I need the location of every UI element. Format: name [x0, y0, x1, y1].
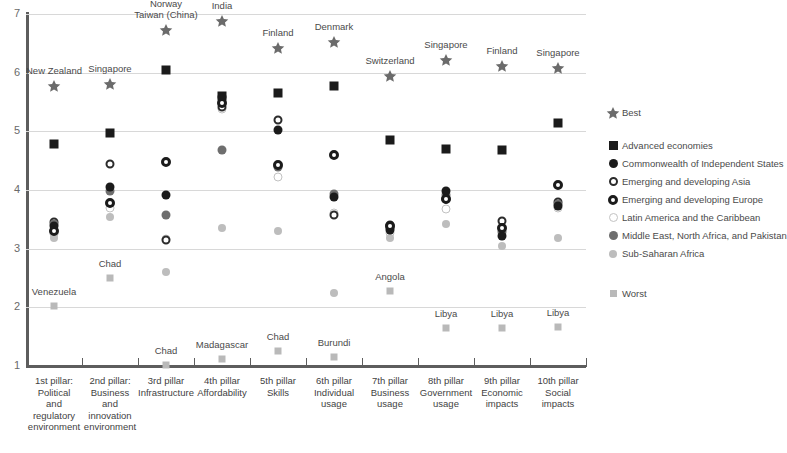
- worst-country-label-pillar-2: Chad: [99, 258, 122, 269]
- label-line: Norway: [134, 0, 197, 9]
- label-line: Singapore: [536, 47, 579, 58]
- datapoint-adv-pillar-9: [498, 146, 507, 155]
- category-line: Economic: [473, 387, 531, 399]
- category-line: 5th pillar: [249, 375, 307, 387]
- datapoint-adv-pillar-2: [106, 129, 115, 138]
- legend-item-1: Advanced economies: [604, 137, 779, 154]
- label-line: India: [212, 0, 233, 11]
- legend-label: Commonwealth of Independent States: [622, 158, 784, 169]
- x-axis-tick: [26, 358, 27, 367]
- legend-spacer: [604, 122, 779, 137]
- datapoint-adv-pillar-3: [162, 65, 171, 74]
- y-axis-tick-3: 3: [0, 242, 20, 254]
- datapoint-latam-pillar-8: [442, 204, 451, 213]
- datapoint-europe-pillar-2: [105, 198, 115, 208]
- category-line: regulatory: [25, 410, 83, 422]
- datapoint-worst-pillar-7: [387, 287, 394, 294]
- x-category-label-pillar-5: 5th pillarSkills: [249, 375, 307, 398]
- x-category-label-pillar-3: 3rd pillarInfrastructure: [137, 375, 195, 398]
- datapoint-ssa-pillar-5: [274, 227, 282, 235]
- legend-item-6: Middle East, North Africa, and Pakistan: [604, 227, 779, 244]
- marker-glyph: [609, 159, 618, 168]
- y-axis-tick-1: 1: [0, 359, 20, 371]
- datapoint-cis-pillar-3: [162, 190, 171, 199]
- category-line: environment: [25, 421, 83, 433]
- category-line: Political: [25, 387, 83, 399]
- x-axis-tick: [418, 358, 419, 367]
- legend-label: Emerging and developing Europe: [622, 194, 763, 205]
- category-line: environment: [81, 421, 139, 433]
- datapoint-adv-pillar-4: [218, 92, 227, 101]
- datapoint-ssa-pillar-7: [386, 234, 394, 242]
- category-line: impacts: [473, 398, 531, 410]
- x-axis-tick: [250, 358, 251, 367]
- datapoint-best-pillar-9: [495, 59, 509, 73]
- filled-circle-icon: [604, 159, 622, 168]
- category-line: 1st pillar:: [25, 375, 83, 387]
- label-line: Switzerland: [365, 55, 414, 66]
- datapoint-cis-pillar-2: [106, 183, 115, 192]
- legend-item-worst: Worst: [604, 285, 779, 302]
- x-category-label-pillar-1: 1st pillar:Politicalandregulatoryenviron…: [25, 375, 83, 433]
- category-line: 2nd pillar:: [81, 375, 139, 387]
- datapoint-europe-pillar-9: [497, 223, 507, 233]
- legend-spacer-2: [604, 263, 779, 285]
- marker-glyph: [609, 141, 618, 150]
- category-line: and: [25, 398, 83, 410]
- y-axis-tick-5: 5: [0, 124, 20, 136]
- best-country-label-pillar-3: NorwayTaiwan (China): [134, 0, 197, 20]
- legend-item-2: Commonwealth of Independent States: [604, 155, 779, 172]
- plot-area: New ZealandSingaporeNorwayTaiwan (China)…: [26, 14, 586, 366]
- worst-country-label-pillar-4: Madagascar: [196, 339, 248, 350]
- category-line: Business: [361, 387, 419, 399]
- open-circle-icon: [604, 177, 622, 186]
- best-country-label-pillar-4: India: [212, 0, 233, 11]
- category-line: Skills: [249, 387, 307, 399]
- best-country-label-pillar-2: Singapore: [88, 63, 131, 74]
- category-line: usage: [417, 398, 475, 410]
- label-line: Singapore: [424, 39, 467, 50]
- best-country-label-pillar-6: Denmark: [315, 21, 354, 32]
- x-axis-tick: [138, 358, 139, 367]
- worst-country-label-pillar-7: Angola: [375, 271, 405, 282]
- datapoint-ssa-pillar-4: [218, 224, 226, 232]
- datapoint-worst-pillar-2: [107, 275, 114, 282]
- worst-country-label-pillar-8: Libya: [435, 308, 458, 319]
- datapoint-worst-pillar-1: [51, 303, 58, 310]
- x-category-label-pillar-8: 8th pillarGovernmentusage: [417, 375, 475, 410]
- datapoint-adv-pillar-10: [554, 118, 563, 127]
- datapoint-cis-pillar-6: [330, 193, 339, 202]
- datapoint-mena-pillar-3: [162, 210, 171, 219]
- datapoint-adv-pillar-7: [386, 136, 395, 145]
- label-line: Denmark: [315, 21, 354, 32]
- datapoint-ssa-pillar-10: [554, 234, 562, 242]
- legend-label: Emerging and developing Asia: [622, 176, 750, 187]
- legend-item-3: Emerging and developing Asia: [604, 173, 779, 190]
- datapoint-latam-pillar-5: [274, 173, 283, 182]
- datapoint-ssa-pillar-9: [498, 242, 506, 250]
- star-icon: [604, 106, 622, 120]
- x-axis-tick: [362, 358, 363, 367]
- y-axis-tick-6: 6: [0, 66, 20, 78]
- y-axis-tick-4: 4: [0, 183, 20, 195]
- best-country-label-pillar-8: Singapore: [424, 39, 467, 50]
- worst-country-label-pillar-9: Libya: [491, 308, 514, 319]
- category-line: Government: [417, 387, 475, 399]
- label-line: New Zealand: [26, 65, 82, 76]
- datapoint-ssa-pillar-2: [106, 213, 114, 221]
- datapoint-worst-pillar-8: [443, 324, 450, 331]
- legend-entry-list: Advanced economiesCommonwealth of Indepe…: [604, 137, 779, 262]
- x-category-label-pillar-7: 7th pillarBusinessusage: [361, 375, 419, 410]
- category-line: impacts: [529, 398, 587, 410]
- gray-circle-icon: [604, 231, 622, 240]
- datapoint-adv-pillar-1: [50, 140, 59, 149]
- category-line: and: [81, 398, 139, 410]
- datapoint-europe-pillar-7: [385, 221, 395, 231]
- datapoint-best-pillar-3: [159, 23, 173, 37]
- worst-country-label-pillar-5: Chad: [267, 331, 290, 342]
- datapoint-europe-pillar-3: [161, 157, 171, 167]
- datapoint-europe-pillar-5: [273, 160, 283, 170]
- marker-glyph: [609, 250, 617, 258]
- x-axis-tick: [530, 358, 531, 367]
